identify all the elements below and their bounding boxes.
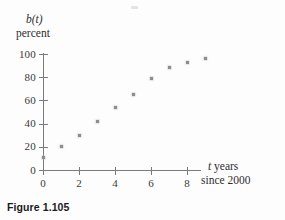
y-axis-tick	[39, 147, 48, 148]
scatter-plot: 020406080100 02468 b(t) percent t years …	[0, 0, 285, 220]
y-axis-tick-label: 20	[8, 141, 36, 152]
x-axis-line	[43, 170, 201, 171]
data-point	[186, 61, 189, 64]
data-point	[168, 66, 171, 69]
x-axis-tick	[151, 167, 152, 175]
y-axis-function-label: b(t)	[26, 13, 43, 25]
x-axis-title: t years since 2000	[208, 160, 251, 187]
figure-container: 020406080100 02468 b(t) percent t years …	[0, 0, 285, 220]
y-axis-tick	[39, 77, 48, 78]
y-axis-tick-label-wrap: 20	[8, 141, 36, 152]
x-axis-tick-label: 4	[107, 178, 123, 189]
data-point	[204, 57, 207, 60]
data-point	[60, 145, 63, 148]
y-axis-tick-label-wrap: 100	[8, 49, 36, 60]
y-axis-tick-label: 0	[8, 165, 36, 176]
y-axis-tick	[39, 100, 48, 101]
y-axis-tick-label-wrap: 0	[8, 165, 36, 176]
figure-caption: Figure 1.105	[7, 201, 69, 213]
data-point	[78, 134, 81, 137]
y-axis-tick-label: 40	[8, 118, 36, 129]
x-axis-tick-label: 8	[179, 178, 195, 189]
y-axis-tick-label-wrap: 60	[8, 95, 36, 106]
y-axis-tick-label-wrap: 80	[8, 72, 36, 83]
x-axis-unit-word: years	[214, 160, 238, 172]
x-axis-tick	[115, 167, 116, 175]
y-axis-line	[43, 53, 44, 171]
y-axis-tick	[39, 124, 48, 125]
x-axis-tick	[43, 167, 44, 175]
y-axis-tick-label: 100	[8, 49, 36, 60]
data-point	[150, 77, 153, 80]
x-axis-tick-label: 6	[143, 178, 159, 189]
data-point	[96, 120, 99, 123]
x-axis-tick	[79, 167, 80, 175]
x-axis-tick-label: 0	[35, 178, 51, 189]
y-axis-title: b(t) percent	[26, 13, 50, 40]
x-axis-tick-label: 2	[71, 178, 87, 189]
y-axis-tick-label: 80	[8, 72, 36, 83]
data-point	[132, 93, 135, 96]
y-axis-tick-label: 60	[8, 95, 36, 106]
x-axis-epoch-label: since 2000	[201, 174, 251, 188]
y-axis-tick-label-wrap: 40	[8, 118, 36, 129]
y-axis-tick	[39, 54, 48, 55]
data-point	[42, 156, 45, 159]
x-axis-tick	[187, 167, 188, 175]
y-axis-unit-label: percent	[16, 27, 50, 41]
data-point	[114, 106, 117, 109]
